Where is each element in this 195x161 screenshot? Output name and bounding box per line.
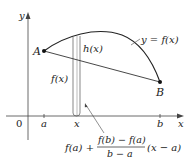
f-label: f(x) — [50, 73, 68, 84]
formula-numerator: f(b) − f(a) — [97, 134, 146, 145]
formula-suffix: (x − a) — [147, 142, 181, 153]
y-axis-arrow-icon — [26, 12, 31, 19]
y-axis-label: y — [18, 10, 25, 21]
strip — [73, 36, 80, 116]
point-b — [158, 80, 162, 84]
origin-label: 0 — [16, 118, 22, 129]
x-axis-label: x — [178, 118, 184, 129]
formula-denominator: b − a — [107, 148, 133, 159]
formula-prefix: f(a) + — [64, 142, 94, 153]
formula-leader — [86, 105, 104, 133]
curve-label-leader — [131, 39, 140, 45]
point-a-label: A — [32, 45, 41, 58]
formula-leader-arrow-icon — [85, 103, 88, 107]
tick-label-b: b — [157, 118, 163, 129]
mvt-diagram: y x 0 a x b A B y = f(x) h(x) f(x) f(a) … — [0, 0, 195, 161]
tick-label-x: x — [74, 118, 80, 129]
h-label: h(x) — [83, 43, 103, 54]
point-a — [42, 49, 46, 53]
point-b-label: B — [155, 86, 164, 99]
tick-label-a: a — [41, 118, 47, 129]
curve-label: y = f(x) — [140, 34, 179, 45]
